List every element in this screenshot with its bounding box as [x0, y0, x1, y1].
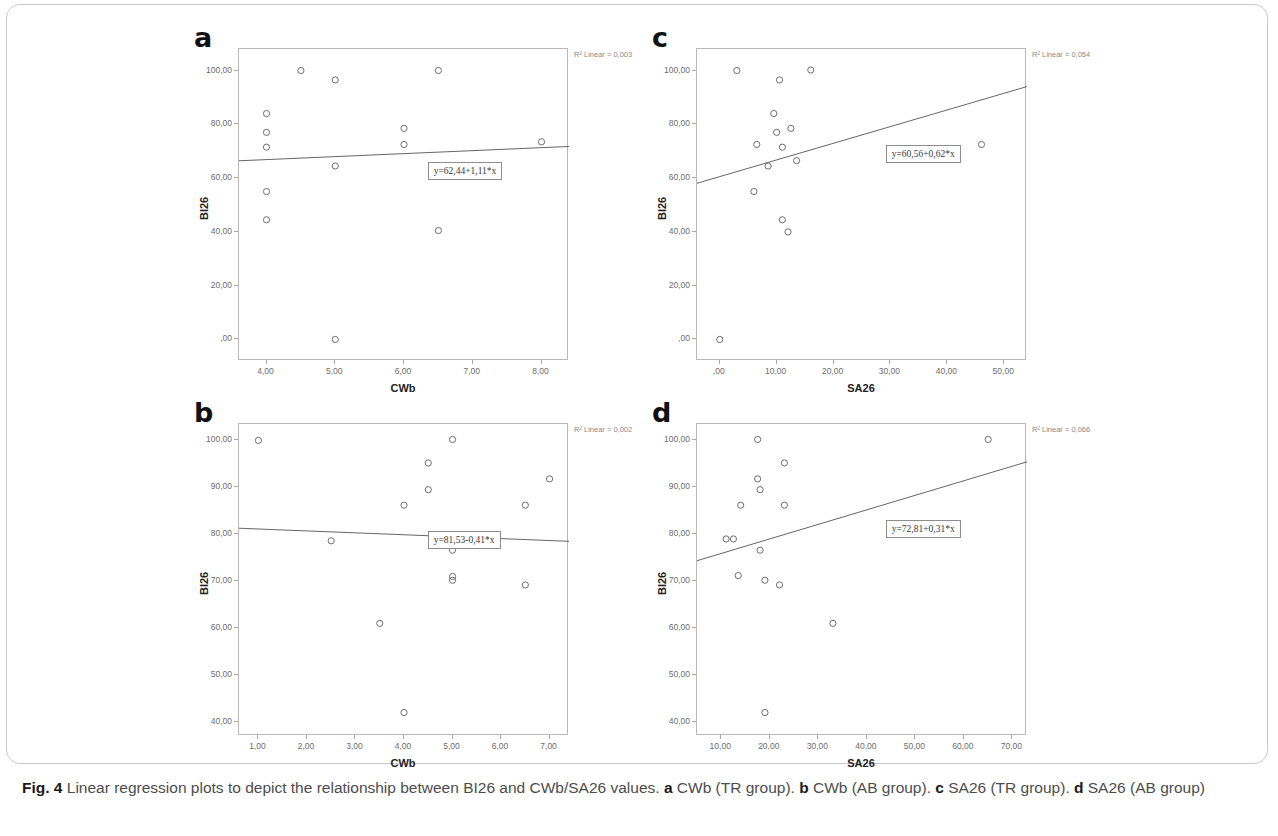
figure-caption: Fig. 4 Linear regression plots to depict… [22, 776, 1262, 799]
caption-part-text-a: CWb (TR group). [677, 779, 795, 796]
y-tick-mark [234, 674, 238, 675]
y-axis-title-c: BI26 [656, 197, 668, 220]
y-axis-title-b: BI26 [198, 572, 210, 595]
data-point [735, 572, 741, 578]
data-point [401, 125, 407, 131]
regression-equation-b: y=81,53-0,41*x [428, 531, 501, 549]
y-tick-label: 40,00 [190, 716, 232, 726]
data-point [328, 538, 334, 544]
y-tick-mark [234, 533, 238, 534]
y-tick-label: 100,00 [190, 434, 232, 444]
x-tick-label: 30,00 [795, 741, 839, 751]
data-point [332, 77, 338, 83]
data-point [263, 129, 269, 135]
x-axis-title-d: SA26 [696, 757, 1026, 769]
data-point [781, 502, 787, 508]
scatter-canvas-d [697, 424, 1027, 736]
data-point [830, 620, 836, 626]
data-point [757, 487, 763, 493]
data-point [793, 158, 799, 164]
x-tick-mark [963, 735, 964, 739]
data-point [255, 437, 261, 443]
y-tick-label: 80,00 [190, 528, 232, 538]
data-point [377, 620, 383, 626]
y-tick-mark [692, 580, 696, 581]
x-tick-mark [866, 735, 867, 739]
y-axis-title-d: BI26 [656, 572, 668, 595]
x-axis-title-b: CWb [238, 757, 568, 769]
data-point [435, 67, 441, 73]
x-tick-label: 70,00 [989, 741, 1033, 751]
data-point [776, 77, 782, 83]
panel-letter-d: d [652, 399, 671, 426]
data-point [771, 110, 777, 116]
data-point [425, 487, 431, 493]
y-tick-label: 100,00 [190, 65, 232, 75]
x-tick-label: 50,00 [981, 366, 1025, 376]
y-tick-label: 90,00 [190, 481, 232, 491]
x-tick-label: 4,00 [244, 366, 288, 376]
x-tick-label: 20,00 [747, 741, 791, 751]
y-tick-label: 20,00 [648, 280, 690, 290]
regression-line-d [697, 462, 1027, 561]
data-point [785, 229, 791, 235]
y-tick-mark [692, 439, 696, 440]
x-tick-label: 40,00 [924, 366, 968, 376]
data-point [774, 129, 780, 135]
x-tick-mark [541, 360, 542, 364]
x-tick-label: 1,00 [235, 741, 279, 751]
y-tick-mark [692, 285, 696, 286]
y-tick-mark [692, 627, 696, 628]
x-tick-label: 6,00 [478, 741, 522, 751]
y-tick-mark [234, 721, 238, 722]
y-tick-mark [234, 177, 238, 178]
x-tick-label: 10,00 [698, 741, 742, 751]
data-point [522, 582, 528, 588]
regression-line-c [697, 87, 1027, 184]
data-point [751, 188, 757, 194]
y-tick-label: 100,00 [648, 65, 690, 75]
data-point [762, 577, 768, 583]
y-tick-label: 60,00 [190, 622, 232, 632]
x-tick-label: 2,00 [284, 741, 328, 751]
y-tick-label: 50,00 [648, 669, 690, 679]
panel-d: d 10,0020,0030,0040,0050,0060,0070,00100… [650, 397, 1070, 772]
data-point [717, 336, 723, 342]
data-point [546, 476, 552, 482]
caption-part-letter-a: a [664, 779, 673, 796]
y-tick-mark [692, 721, 696, 722]
data-point [755, 476, 761, 482]
x-tick-mark [769, 735, 770, 739]
y-tick-label: 60,00 [190, 172, 232, 182]
x-tick-mark [549, 735, 550, 739]
y-tick-mark [234, 231, 238, 232]
caption-main: Linear regression plots to depict the re… [67, 779, 660, 796]
plot-area-a [238, 48, 568, 360]
x-tick-mark [914, 735, 915, 739]
regression-line-a [239, 146, 569, 160]
y-tick-label: 60,00 [648, 622, 690, 632]
r-squared-label-b: R² Linear = 0,002 [574, 425, 632, 434]
data-point [263, 144, 269, 150]
y-tick-label: 100,00 [648, 434, 690, 444]
x-axis-title-c: SA26 [696, 382, 1026, 394]
panel-letter-c: c [652, 24, 668, 51]
data-point [808, 67, 814, 73]
x-tick-label: 4,00 [381, 741, 425, 751]
caption-part-letter-b: b [799, 779, 808, 796]
x-tick-mark [817, 735, 818, 739]
plot-area-c [696, 48, 1026, 360]
y-tick-mark [692, 123, 696, 124]
y-tick-label: 50,00 [190, 669, 232, 679]
data-point [762, 709, 768, 715]
y-tick-label: 60,00 [648, 172, 690, 182]
x-tick-mark [1011, 735, 1012, 739]
y-tick-label: 70,00 [648, 575, 690, 585]
y-tick-label: 90,00 [648, 481, 690, 491]
r-squared-label-a: R² Linear = 0,003 [574, 50, 632, 59]
data-point [263, 217, 269, 223]
data-point [781, 460, 787, 466]
data-point [401, 709, 407, 715]
scatter-canvas-c [697, 49, 1027, 361]
y-tick-label: 70,00 [190, 575, 232, 585]
